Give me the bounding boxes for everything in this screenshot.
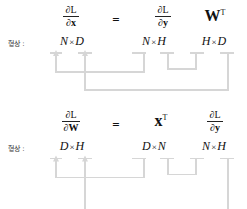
equals-glyph: = xyxy=(112,12,119,27)
shape-right-dim: D xyxy=(218,34,227,48)
fraction-dL-dW: ∂L ∂W xyxy=(62,109,81,133)
formula-row-dx: ∂L ∂x = ∂L ∂y WT xyxy=(0,4,247,34)
diagram-canvas: ∂L ∂x = ∂L ∂y WT 형상 : N×D xyxy=(0,0,247,209)
shape-right-dim: H xyxy=(157,34,166,48)
equation-block-dW: ∂L ∂W = xT ∂L ∂y 형상 : D×H xyxy=(0,105,247,209)
term-x-transpose: xT xyxy=(138,113,184,129)
fraction-dL-dx: ∂L ∂x xyxy=(63,4,78,28)
denominator-variable: x xyxy=(71,17,76,28)
bracket-N-to-N xyxy=(168,159,196,175)
shape-N-x-H-lower: N×H xyxy=(188,139,240,153)
formula-row-dW: ∂L ∂W = xT ∂L ∂y xyxy=(0,109,247,139)
fraction-numerator: ∂L xyxy=(207,109,222,122)
denominator-variable: W xyxy=(68,122,78,133)
fraction-numerator: ∂L xyxy=(155,4,170,17)
shape-times: × xyxy=(210,37,217,47)
shape-left-dim: N xyxy=(202,139,210,153)
fraction-numerator: ∂L xyxy=(63,4,78,17)
shape-right-dim: N xyxy=(158,139,166,153)
fraction-denominator: ∂y xyxy=(207,122,222,134)
shape-left-dim: N xyxy=(142,34,150,48)
shape-times: × xyxy=(68,142,75,152)
equals-sign-dW: = xyxy=(100,116,132,132)
bracket-D-to-D xyxy=(56,163,144,178)
shape-row-dx: 형상 : N×D N×H H×D xyxy=(0,34,247,54)
fraction-dL-dy: ∂L ∂y xyxy=(207,109,222,133)
shape-left-dim: N xyxy=(60,34,68,48)
fraction-numerator: ∂L xyxy=(62,109,81,122)
term-W-transpose: WT xyxy=(192,8,238,24)
term-dL-dy-upper: ∂L ∂y xyxy=(140,4,186,28)
fraction-denominator: ∂x xyxy=(63,17,78,29)
fraction-dL-dy: ∂L ∂y xyxy=(155,4,170,28)
shape-right-dim: H xyxy=(217,139,226,153)
matrix-symbol-x: xT xyxy=(155,113,168,129)
shape-times: × xyxy=(151,142,158,152)
equals-glyph: = xyxy=(112,117,119,132)
shape-N-x-D: N×D xyxy=(46,34,98,48)
shape-label-dW: 형상 : xyxy=(8,143,25,153)
term-dL-dx: ∂L ∂x xyxy=(48,4,94,28)
transpose-superscript: T xyxy=(221,8,226,17)
bracket-D-to-D xyxy=(85,53,228,90)
term-dL-dy-lower: ∂L ∂y xyxy=(192,109,238,133)
shape-H-x-D: H×D xyxy=(188,34,240,48)
shape-right-dim: D xyxy=(75,34,84,48)
equals-sign-dx: = xyxy=(100,11,132,27)
transpose-superscript: T xyxy=(163,113,168,122)
fraction-denominator: ∂W xyxy=(62,122,81,134)
shape-D-x-N: D×N xyxy=(128,139,180,153)
shape-label-dx: 형상 : xyxy=(8,38,25,48)
shape-row-dW: 형상 : D×H D×N N×H xyxy=(0,139,247,159)
term-dL-dW: ∂L ∂W xyxy=(48,109,94,133)
fraction-denominator: ∂y xyxy=(155,17,170,29)
matrix-base: W xyxy=(205,7,221,24)
stub-DxN-left xyxy=(132,159,146,163)
denominator-variable: y xyxy=(215,122,220,133)
shape-right-dim: H xyxy=(76,139,85,153)
bracket-H-to-H xyxy=(168,53,196,69)
shape-left-dim: D xyxy=(142,139,151,153)
matrix-symbol-W: WT xyxy=(205,8,226,24)
denominator-variable: y xyxy=(163,17,168,28)
bracket-N-to-N xyxy=(56,57,144,72)
equation-block-dx: ∂L ∂x = ∂L ∂y WT 형상 : N×D xyxy=(0,0,247,105)
shape-D-x-H: D×H xyxy=(46,139,98,153)
shape-N-x-H: N×H xyxy=(128,34,180,48)
matrix-base: x xyxy=(155,112,163,129)
